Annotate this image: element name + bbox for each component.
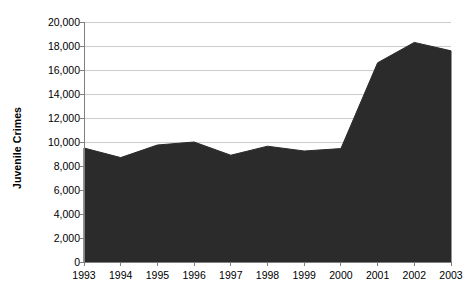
x-tick-label: 1997 <box>211 270 251 281</box>
x-tick-label: 2001 <box>358 270 398 281</box>
x-axis-tick-labels: 1993199419951996199719981999200020012002… <box>0 0 465 296</box>
x-tick-label: 2000 <box>321 270 361 281</box>
x-tick-label: 2002 <box>394 270 434 281</box>
x-tick-label: 1996 <box>174 270 214 281</box>
x-tick-label: 1994 <box>101 270 141 281</box>
x-tick-label: 1999 <box>284 270 324 281</box>
x-tick-label: 1993 <box>64 270 104 281</box>
x-tick-label: 2003 <box>431 270 465 281</box>
x-tick-label: 1998 <box>248 270 288 281</box>
x-tick-label: 1995 <box>137 270 177 281</box>
area-chart: Juvenile Crimes 02,0004,0006,0008,00010,… <box>0 0 465 296</box>
